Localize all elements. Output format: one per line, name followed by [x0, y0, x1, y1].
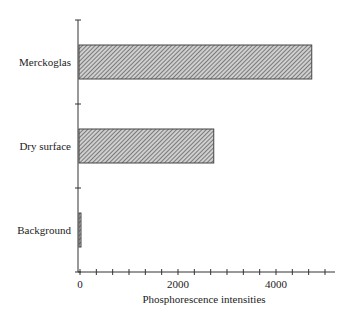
bar-dry-surface: [79, 129, 214, 163]
category-label: Merckoglas: [19, 56, 71, 68]
x-axis-label: Phosphorescence intensities: [142, 293, 265, 305]
bar-chart: MerckoglasDry surfaceBackground 02000400…: [0, 0, 351, 323]
bar-merckoglas: [79, 45, 312, 79]
x-tick-label: 4000: [265, 278, 288, 290]
x-tick-labels: 020004000: [77, 278, 287, 290]
x-tick-label: 0: [77, 278, 83, 290]
bars: [79, 45, 312, 247]
category-label: Background: [17, 224, 71, 236]
x-tick-label: 2000: [167, 278, 190, 290]
bar-background: [79, 213, 81, 247]
category-label: Dry surface: [19, 140, 71, 152]
category-labels: MerckoglasDry surfaceBackground: [17, 56, 71, 236]
